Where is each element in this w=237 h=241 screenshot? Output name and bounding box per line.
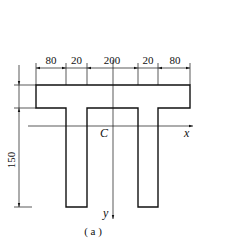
figure-caption: ( a ) (84, 225, 102, 238)
cross-section-diagram: 80 20 200 20 80 150 C x y ( a ) (0, 0, 237, 241)
y-axis-label: y (102, 206, 109, 220)
dim-label-80-right: 80 (170, 54, 182, 66)
left-dimension (14, 65, 36, 207)
dim-label-150: 150 (5, 151, 17, 168)
centroid-label: C (100, 126, 109, 140)
dim-label-200: 200 (104, 54, 121, 66)
dim-label-20-left: 20 (71, 54, 83, 66)
x-axis-label: x (183, 126, 190, 140)
dim-label-80-left: 80 (46, 54, 58, 66)
dim-label-20-right: 20 (143, 54, 155, 66)
